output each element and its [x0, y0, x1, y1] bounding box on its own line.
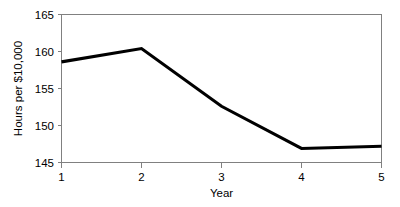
- y-tick-label-165: 165: [35, 9, 54, 21]
- x-tick-label-3: 3: [218, 171, 224, 183]
- x-axis-title: Year: [210, 187, 233, 199]
- x-tick-label-5: 5: [378, 171, 384, 183]
- y-tick-label-155: 155: [35, 83, 54, 95]
- y-tick-label-145: 145: [35, 157, 54, 169]
- x-tick-label-2: 2: [138, 171, 144, 183]
- y-tick-label-150: 150: [35, 120, 54, 132]
- x-tick-label-1: 1: [58, 171, 64, 183]
- y-axis-title: Hours per $10,000: [12, 41, 24, 136]
- chart-canvas: 165 160 155 150 145 1 2 3 4 5 Year Hours…: [0, 0, 400, 207]
- x-tick-label-4: 4: [298, 171, 305, 183]
- y-tick-label-160: 160: [35, 46, 54, 58]
- line-chart: 165 160 155 150 145 1 2 3 4 5 Year Hours…: [0, 0, 400, 207]
